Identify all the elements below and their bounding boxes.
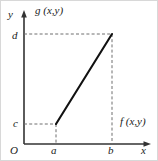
figure-canvas: y x g (x,y) f (x,y) d c a b O [0,0,158,161]
x-axis [24,141,151,147]
y-tick-label-d: d [12,30,18,41]
y-tick-label-c: c [13,118,18,129]
y-axis-label: y [8,9,13,20]
boundary-segment [56,34,112,124]
plot-area [1,1,158,161]
upper-function-label: g (x,y) [35,5,63,16]
lower-function-label: f (x,y) [120,116,146,127]
y-axis-arrowhead-icon [21,10,27,18]
origin-label: O [10,145,18,156]
guide-lines [24,34,112,144]
x-tick-label-a: a [51,145,57,156]
x-axis-label: x [141,145,146,156]
x-tick-label-b: b [108,145,114,156]
